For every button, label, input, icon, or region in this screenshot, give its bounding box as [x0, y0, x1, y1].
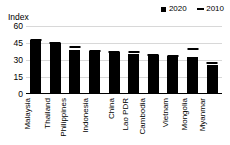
marker-2010 [50, 42, 61, 44]
x-label-slot: Cambodia [144, 96, 164, 144]
x-axis-tick-label: Indonesia [77, 63, 85, 98]
x-label-slot: Indonesia [85, 96, 105, 144]
marker-2010 [148, 54, 159, 56]
x-axis-tick-label-text: Lao PDR [122, 98, 130, 130]
legend-label-2020: 2020 [169, 5, 187, 13]
bar-slot [85, 26, 105, 94]
marker-2010 [128, 51, 139, 53]
marker-2010 [167, 55, 178, 57]
chart-legend: 2020 2010 [161, 5, 224, 13]
bar-2020 [207, 65, 218, 94]
bar-slot [202, 26, 222, 94]
x-axis-tick-label: Malaysia [20, 66, 28, 98]
x-axis-tick-label: Vietnam [158, 69, 166, 98]
dash-icon [197, 8, 204, 10]
marker-2010 [30, 39, 41, 41]
marker-2010 [69, 46, 80, 48]
legend-entry-2010: 2010 [197, 5, 224, 13]
x-axis-tick-label-text: Vietnam [162, 98, 170, 127]
x-axis-tick-label-text: Philippines [60, 98, 68, 137]
y-axis-tick-label: 45 [14, 39, 23, 48]
x-label-slot: Myanmar [202, 96, 222, 144]
legend-label-2010: 2010 [206, 5, 224, 13]
marker-2010 [187, 48, 198, 50]
x-axis-tick-label: Mongolia [176, 66, 184, 98]
x-axis-tick-label-text: Indonesia [81, 98, 89, 133]
x-axis-tick-label-text: Mongolia [180, 98, 188, 130]
x-axis-tick-label-text: Myanmar [199, 98, 207, 131]
index-bar-chart: 2020 2010 Index 015304560 MalaysiaThaila… [0, 0, 230, 145]
marker-2010 [89, 50, 100, 52]
bar-2020 [148, 55, 159, 94]
filled-square-icon [161, 7, 166, 12]
x-axis-tick-label-text: Cambodia [139, 98, 147, 134]
marker-2010 [207, 62, 218, 64]
x-axis-tick-label-text: Thailand [44, 98, 52, 129]
y-axis-tick-label: 60 [14, 22, 23, 31]
legend-entry-2020: 2020 [161, 5, 186, 13]
x-axis-tick-label: Myanmar [195, 65, 203, 98]
x-axis-tick-label: Lao PDR [118, 66, 126, 98]
x-axis-tick-label-text: China [108, 98, 116, 119]
x-axis-labels: MalaysiaThailandPhilippinesIndonesiaChin… [26, 96, 222, 144]
x-axis-tick-label: Philippines [56, 59, 64, 98]
x-axis-tick-label: Thailand [40, 67, 48, 98]
marker-2010 [109, 51, 120, 53]
bar-2020 [89, 51, 100, 94]
y-axis-tick-label: 30 [14, 56, 23, 65]
x-axis-tick-label: Cambodia [135, 62, 143, 98]
x-axis-tick-label: China [104, 77, 112, 98]
x-axis-tick-label-text: Malaysia [24, 98, 32, 130]
